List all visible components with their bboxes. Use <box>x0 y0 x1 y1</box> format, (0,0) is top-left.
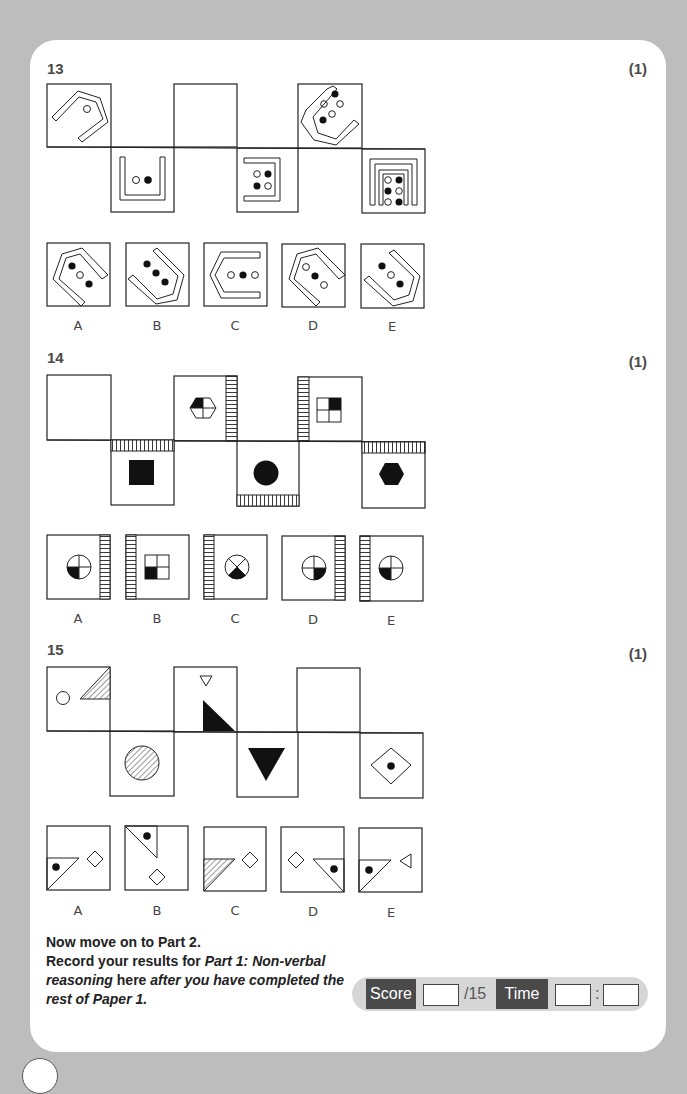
time-separator: : <box>595 977 599 1011</box>
q15-option-a-label[interactable]: A <box>68 903 88 918</box>
instruction-record-results: Record your results for Part 1: Non-verb… <box>46 952 346 1009</box>
q15-option-c-label[interactable]: C <box>225 903 245 918</box>
page-number-circle <box>22 1058 58 1094</box>
instruction-next-part: Now move on to Part 2. <box>46 933 346 952</box>
score-total: /15 <box>464 977 486 1011</box>
instructions: Now move on to Part 2. Record your resul… <box>46 933 346 1009</box>
score-label: Score <box>366 979 416 1009</box>
score-input[interactable] <box>423 984 459 1006</box>
q15-option-e-label[interactable]: E <box>381 905 401 920</box>
q15-option-b-label[interactable]: B <box>147 903 167 918</box>
time-minutes-input[interactable] <box>555 984 591 1006</box>
time-label: Time <box>496 979 548 1009</box>
q15-option-d-label[interactable]: D <box>303 904 323 919</box>
time-seconds-input[interactable] <box>603 984 639 1006</box>
score-bar: Score /15 Time : <box>352 977 648 1011</box>
